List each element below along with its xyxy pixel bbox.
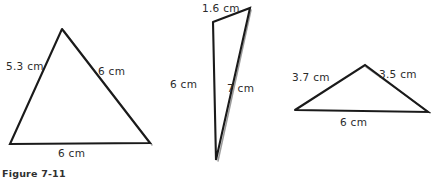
triangle-3-right-side-label: 3.5 cm [379, 69, 417, 80]
triangle-1-left-side-label: 5.3 cm [6, 61, 44, 72]
triangle-1-base-label: 6 cm [58, 148, 85, 159]
triangle-1-right-side-label: 6 cm [98, 66, 125, 77]
triangle-3-left-side-label: 3.7 cm [292, 72, 330, 83]
figure-caption: Figure 7-11 [2, 168, 66, 179]
triangle-2-right-side-label: 7 cm [227, 83, 254, 94]
triangle-1-outline [10, 29, 150, 144]
figure-container: 5.3 cm 6 cm 6 cm 1.6 cm 6 cm 7 cm 3.7 cm… [0, 0, 435, 180]
triangle-3-base-label: 6 cm [340, 117, 367, 128]
triangle-2-top-side-label: 1.6 cm [202, 3, 240, 14]
triangle-2-left-side-label: 6 cm [170, 79, 197, 90]
triangle-1-group [10, 29, 152, 145]
